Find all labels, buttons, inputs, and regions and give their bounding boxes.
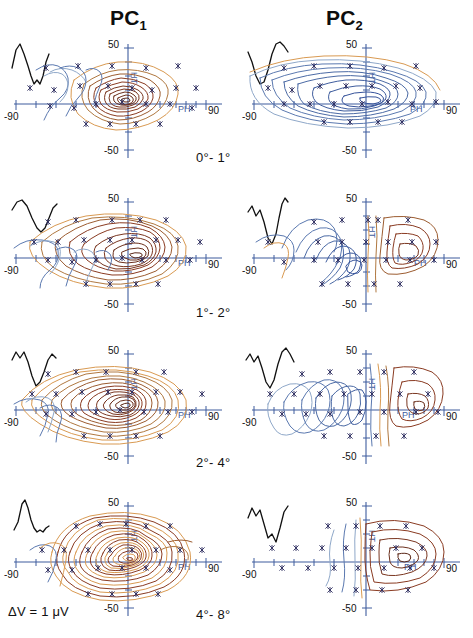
axis-label-xmax: 90 xyxy=(446,411,458,422)
panel-pc1-0-1: -90 90 50 -50 PH HT xyxy=(0,32,233,160)
axis-label-xmin: -90 xyxy=(4,417,19,428)
axis-label-ymax: 50 xyxy=(346,497,358,508)
waveform-inset-pc2-2-4 xyxy=(246,348,294,388)
panel-pc2-0-1: -90 90 50 -50 PH HT xyxy=(238,32,471,160)
axis-label-xmin: -90 xyxy=(4,569,19,580)
axis-label-ymax: 50 xyxy=(346,345,358,356)
axis-label-ymax: 50 xyxy=(108,497,120,508)
electrode-markers-pc2-4-8 xyxy=(269,523,436,593)
axis-label-xmax: 90 xyxy=(208,411,220,422)
axis-label-ymax: 50 xyxy=(108,345,120,356)
axes-pc2-1-2: -90 90 50 -50 PH HT xyxy=(242,193,460,312)
axis-label-ymin: -50 xyxy=(342,603,357,614)
axis-label-ymin: -50 xyxy=(104,145,119,156)
contours-pc1-2-4 xyxy=(14,366,187,444)
waveform-inset-pc1-0-1 xyxy=(12,44,49,84)
column-header-pc1-text: PC xyxy=(110,6,140,29)
axes-pc1-2-4: -90 90 50 -50 PH HT xyxy=(4,345,222,464)
contours-pc2-4-8 xyxy=(326,518,444,598)
figure-root: PC1 PC2 0°- 1° 1°- 2° 2°- 4° 4°- 8° ΔV =… xyxy=(0,0,473,638)
axis-label-ymax: 50 xyxy=(346,39,358,50)
column-header-pc2-subscript: 2 xyxy=(356,18,363,33)
column-header-pc1-subscript: 1 xyxy=(140,18,147,33)
axis-label-xmax: 90 xyxy=(446,259,458,270)
contours-pc2-0-1 xyxy=(250,56,440,128)
axis-inline-annotation: PH xyxy=(178,104,191,114)
waveform-inset-pc2-0-1 xyxy=(248,42,288,84)
contours-pc1-0-1 xyxy=(36,62,178,130)
waveform-inset-pc2-1-2 xyxy=(248,198,288,244)
panel-pc2-4-8: -90 90 50 -50 PH HT xyxy=(238,490,471,618)
waveform-inset-pc1-1-2 xyxy=(12,200,57,232)
electrode-markers-pc2-1-2 xyxy=(265,217,438,287)
electrode-markers-pc2-2-4 xyxy=(267,369,440,439)
axis-label-xmin: -90 xyxy=(4,265,19,276)
contours-pc1-4-8 xyxy=(30,512,192,600)
axis-label-ymin: -50 xyxy=(104,603,119,614)
panel-pc1-1-2: -90 90 50 -50 PH HT xyxy=(0,186,233,314)
axes-pc1-4-8: -90 90 50 -50 PH HT xyxy=(4,497,222,616)
axis-label-ymax: 50 xyxy=(108,193,120,204)
axis-label-ymin: -50 xyxy=(104,299,119,310)
column-header-pc1: PC1 xyxy=(110,6,147,30)
axis-label-ymin: -50 xyxy=(342,145,357,156)
column-header-pc2-text: PC xyxy=(326,6,356,29)
axis-label-xmax: 90 xyxy=(446,563,458,574)
axis-label-ymin: -50 xyxy=(104,451,119,462)
axis-label-ymin: -50 xyxy=(342,299,357,310)
axis-inline-annotation: PH xyxy=(402,410,415,420)
axis-label-xmax: 90 xyxy=(208,563,220,574)
panel-pc2-2-4: -90 90 50 -50 PH HT xyxy=(238,338,471,466)
axis-label-xmin: -90 xyxy=(242,569,257,580)
axis-label-xmin: -90 xyxy=(242,265,257,276)
column-header-pc2: PC2 xyxy=(326,6,363,30)
axis-label-xmin: -90 xyxy=(4,111,19,122)
axis-label-ymax: 50 xyxy=(346,193,358,204)
axis-inline-annotation: PH xyxy=(178,410,191,420)
waveform-inset-pc1-2-4 xyxy=(12,352,56,386)
contours-pc2-1-2 xyxy=(256,216,438,292)
axis-label-xmax: 90 xyxy=(446,105,458,116)
panel-pc1-2-4: -90 90 50 -50 PH HT xyxy=(0,338,233,466)
panel-pc2-1-2: -90 90 50 -50 PH HT xyxy=(238,186,471,314)
axes-pc1-0-1: -90 90 50 -50 PH HT xyxy=(4,39,222,158)
waveform-inset-pc1-4-8 xyxy=(14,500,49,532)
axes-pc2-0-1: -90 90 50 -50 PH HT xyxy=(242,39,460,158)
contours-pc2-2-4 xyxy=(268,364,443,446)
axis-label-xmin: -90 xyxy=(242,417,257,428)
waveform-inset-pc2-4-8 xyxy=(248,506,288,542)
axis-label-xmax: 90 xyxy=(208,105,220,116)
axis-label-ymin: -50 xyxy=(342,451,357,462)
axis-label-ymax: 50 xyxy=(108,39,120,50)
axis-label-xmax: 90 xyxy=(208,259,220,270)
panel-pc1-4-8: -90 90 50 -50 PH HT xyxy=(0,490,233,618)
axis-label-xmin: -90 xyxy=(242,111,257,122)
contours-pc1-1-2 xyxy=(14,214,186,289)
